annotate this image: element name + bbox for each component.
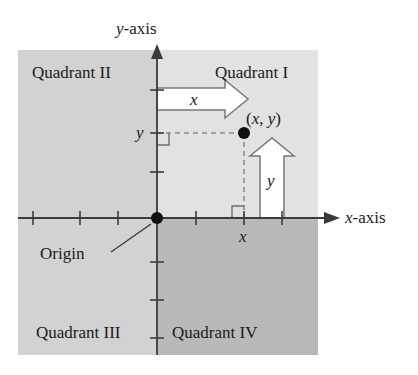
x-axis-label-suffix: -axis <box>353 208 386 227</box>
x-value-tick-label: x <box>239 228 247 245</box>
y-axis-label: y-axis <box>116 20 157 37</box>
x-axis-arrowhead <box>324 212 340 224</box>
x-axis-label: x-axis <box>345 209 386 226</box>
x-axis-label-variable: x <box>345 208 353 227</box>
vertical-measure-label: y <box>267 172 275 189</box>
y-axis-label-suffix: -axis <box>124 19 157 38</box>
y-value-tick-label: y <box>136 124 144 141</box>
quadrant-1-label: Quadrant I <box>215 64 288 81</box>
plotted-point-dot <box>238 127 250 139</box>
y-axis-label-variable: y <box>116 19 124 38</box>
point-label-comma: , <box>259 109 268 128</box>
point-coordinate-label: (x, y) <box>246 110 281 127</box>
coordinate-plane-figure: y-axis x-axis Quadrant II Quadrant I Qua… <box>0 0 418 375</box>
quadrant-4-label: Quadrant IV <box>172 324 257 341</box>
coordinate-plane-svg <box>0 0 418 375</box>
quadrant-2-label: Quadrant II <box>32 64 111 81</box>
origin-label: Origin <box>40 245 84 262</box>
quadrant-3-label: Quadrant III <box>36 324 121 341</box>
point-label-close: ) <box>275 109 281 128</box>
horizontal-measure-label: x <box>190 91 198 108</box>
origin-point-dot <box>151 212 163 224</box>
